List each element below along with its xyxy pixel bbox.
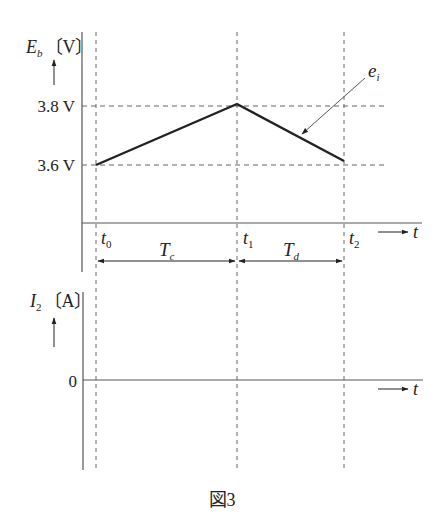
tc-label: Tc [159, 239, 175, 262]
voltage-gridlines [82, 106, 385, 165]
top-t-label: t [413, 222, 419, 242]
td-label: Td [283, 239, 300, 262]
battery-waveform-figure: Eb〔V〕 3.8 V 3.6 V ei t0 t1 t2 t Tc T [0, 0, 444, 530]
bottom-t-label: t [413, 379, 419, 399]
top-plot: Eb〔V〕 3.8 V 3.6 V ei t0 t1 t2 t Tc T [25, 32, 422, 472]
ei-label: ei [368, 60, 380, 83]
time-gridlines [96, 32, 344, 472]
t1-label: t1 [243, 228, 254, 250]
ytick-3.8v: 3.8 V [38, 97, 76, 116]
figure-caption: 図3 [209, 490, 236, 510]
ytick-zero: 0 [69, 372, 78, 391]
top-y-label: Eb〔V〕 [25, 37, 94, 59]
ei-waveform [96, 104, 344, 165]
t0-label: t0 [101, 228, 112, 250]
ytick-3.6v: 3.6 V [38, 156, 76, 175]
bottom-y-label: I2〔A〕 [29, 291, 93, 313]
bottom-plot: I2〔A〕 0 t [29, 291, 423, 470]
t2-label: t2 [349, 228, 360, 250]
